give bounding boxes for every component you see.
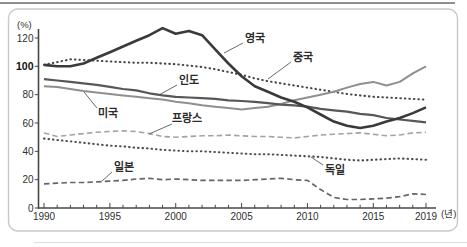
y-tick-label: 40 bbox=[22, 146, 34, 157]
x-tick-label: 1995 bbox=[99, 211, 122, 222]
series-label-india: 인도 bbox=[179, 73, 199, 86]
y-tick-label: 60 bbox=[22, 118, 34, 129]
series-line-japan bbox=[44, 178, 426, 199]
y-tick-label: 0 bbox=[28, 203, 34, 214]
series-label-pointer-germany bbox=[311, 157, 323, 165]
x-tick-label: 2005 bbox=[230, 211, 253, 222]
series-label-usa: 미국 bbox=[98, 106, 118, 119]
y-tick-label: 80 bbox=[22, 89, 34, 100]
series-label-pointer-usa bbox=[84, 92, 97, 108]
series-line-usa bbox=[44, 66, 426, 109]
series-line-germany bbox=[44, 139, 426, 161]
y-tick-label: 20 bbox=[22, 174, 34, 185]
series-label-france: 프랑스 bbox=[172, 112, 202, 124]
series-label-germany: 독일 bbox=[325, 163, 345, 176]
x-tick-label: 2019 bbox=[415, 211, 438, 222]
series-label-pointer-india bbox=[159, 85, 177, 95]
y-axis-unit-label: (%) bbox=[17, 19, 32, 30]
x-tick-label: 1990 bbox=[33, 211, 56, 222]
x-tick-label: 2010 bbox=[296, 211, 319, 222]
x-tick-label: 2000 bbox=[165, 211, 188, 222]
x-axis-unit-label: (년) bbox=[441, 208, 456, 219]
y-tick-label: 100 bbox=[16, 60, 34, 72]
series-label-pointer-china bbox=[268, 62, 291, 79]
series-line-france bbox=[44, 131, 426, 138]
line-chart: (%) (년) 19901995200020052010201520190204… bbox=[0, 0, 467, 247]
series-label-pointer-uk bbox=[224, 43, 243, 53]
series-label-pointer-japan bbox=[102, 172, 112, 181]
series-label-uk: 영국 bbox=[245, 32, 265, 44]
series-label-japan: 일본 bbox=[114, 160, 134, 173]
series-label-china: 중국 bbox=[293, 51, 313, 63]
x-tick-label: 2015 bbox=[362, 211, 385, 222]
y-tick-label: 120 bbox=[17, 33, 34, 44]
series-label-pointer-france bbox=[149, 124, 172, 134]
